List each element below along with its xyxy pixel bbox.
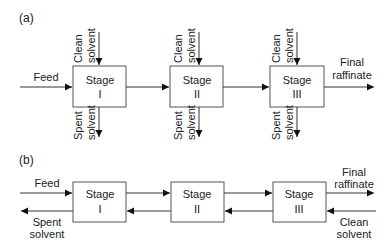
clean-solvent-label-2: solvent [85,28,97,63]
spent-solvent-label-2: solvent [30,228,65,240]
panel-a-label: (a) [19,11,34,25]
stage-name: Stage [283,74,312,86]
spent-solvent-label-2: solvent [185,105,197,140]
stage-box [73,66,126,107]
stage-b-1: Stage I [73,182,126,222]
stage-b-3: Stage III [273,182,326,222]
panel-b-label: (b) [19,153,34,167]
stage-box [170,66,223,107]
final-raffinate-stream-a: Final raffinate [324,56,374,87]
feed-label: Feed [33,71,58,83]
clean-solvent-label-2: solvent [283,28,295,63]
feed-label: Feed [34,177,59,189]
clean-solvent-label-1: Clean [340,216,369,228]
feed-stream-a: Feed [20,71,72,87]
final-raffinate-label-2: raffinate [332,69,372,81]
spent-solvent-label-2: solvent [85,105,97,140]
stage-name: Stage [183,74,212,86]
stage-numeral: III [292,88,301,100]
stage-numeral: III [294,203,303,215]
stage-numeral: II [194,88,200,100]
clean-solvent-label-1: Clean [270,34,282,63]
spent-solvent-label-1: Spent [72,111,84,140]
final-raffinate-label-1: Final [342,166,366,178]
stage-name: Stage [86,188,115,200]
stage-name: Stage [285,188,314,200]
stage-box [270,66,324,107]
clean-solvent-label-1: Clean [172,34,184,63]
spent-solvent-label-1: Spent [270,111,282,140]
clean-solvent-label-2: solvent [337,228,372,240]
spent-solvent-label-1: Spent [33,216,62,228]
panel-a: (a) Feed Stage I Clean solvent Spent sol… [19,11,374,140]
stage-numeral: II [194,203,200,215]
stage-a-3: Stage III Clean solvent Spent solvent [270,28,324,140]
stage-name: Stage [183,188,212,200]
extraction-diagram: (a) Feed Stage I Clean solvent Spent sol… [0,0,391,250]
clean-solvent-label-2: solvent [185,28,197,63]
spent-solvent-label-2: solvent [283,105,295,140]
stage-name: Stage [86,74,115,86]
final-raffinate-label-1: Final [340,56,364,68]
stage-numeral: I [98,203,101,215]
stage-a-1: Stage I Clean solvent Spent solvent [72,28,126,140]
stage-numeral: I [98,88,101,100]
final-raffinate-label-2: raffinate [334,178,374,190]
stage-b-2: Stage II [171,182,224,222]
clean-solvent-label-1: Clean [72,34,84,63]
spent-solvent-label-1: Spent [172,111,184,140]
panel-b: (b) Feed Spent solvent Stage I Stage II … [19,153,376,240]
stage-a-2: Stage II Clean solvent Spent solvent [170,28,223,140]
